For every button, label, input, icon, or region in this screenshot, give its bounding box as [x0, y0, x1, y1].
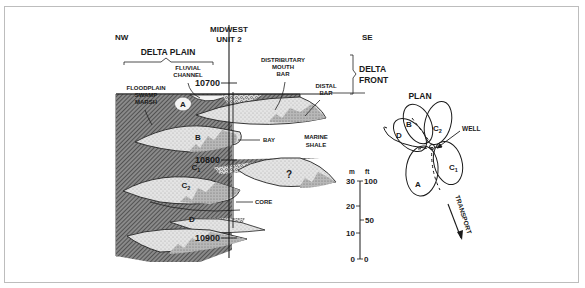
distributary-label: DISTRIBUTARY — [261, 57, 305, 63]
delta-diagram: NW SE MIDWEST UNIT 2 DELTA PLAIN DELTA F… — [0, 0, 585, 288]
scale-ft-100: 100 — [364, 177, 378, 186]
distributary-label: MOUTH — [272, 64, 294, 70]
plan-lobe-a — [404, 145, 440, 198]
delta-front-label: FRONT — [359, 75, 389, 85]
scale-unit-ft: ft — [365, 168, 370, 175]
delta-plain-label: DELTA PLAIN — [141, 47, 196, 57]
depth-10900: 10900 — [195, 233, 220, 243]
plan-lobe-c2 — [420, 98, 457, 147]
plan-view: PLAN D B C2 C1 A WELL TRANSPORT — [384, 91, 481, 240]
plan-well-label: WELL — [462, 125, 480, 132]
direction-nw: NW — [115, 33, 129, 42]
direction-se: SE — [362, 33, 373, 42]
unit-a: A — [180, 100, 186, 109]
plan-title: PLAN — [408, 91, 431, 101]
marine-shale-label: MARINE — [304, 134, 328, 140]
plan-label-b: B — [406, 120, 412, 129]
scale-ft-0: 0 — [364, 255, 369, 264]
distributary-label: BAR — [277, 71, 291, 77]
unit-d: D — [189, 215, 195, 224]
plan-label-c2: C2 — [433, 124, 442, 134]
floodplain-label: MARSH — [135, 99, 157, 105]
cross-section: NW SE MIDWEST UNIT 2 DELTA PLAIN DELTA F… — [115, 25, 389, 262]
delta-front-bracket — [350, 55, 356, 94]
core-label: CORE — [255, 199, 272, 205]
scale-m-30: 30 — [346, 177, 355, 186]
scale-m-20: 20 — [346, 202, 355, 211]
depth-10800: 10800 — [195, 155, 220, 165]
marine-shale-label: SHALE — [306, 142, 326, 148]
well-name: MIDWEST — [210, 25, 248, 34]
scale-m-10: 10 — [346, 229, 355, 238]
scale-ft-50: 50 — [365, 216, 374, 225]
scale-bar: m ft 30 20 10 0 100 50 0 — [346, 168, 378, 264]
delta-plain-bracket — [124, 58, 213, 65]
floodplain-label: FLOODPLAIN — [127, 85, 166, 91]
plan-label-d: D — [396, 131, 402, 140]
unit-unknown: ? — [286, 169, 292, 180]
plan-label-a: A — [415, 180, 421, 189]
plan-label-c1: C1 — [449, 163, 458, 173]
depth-10700: 10700 — [195, 78, 220, 88]
delta-front-label: DELTA — [359, 64, 386, 74]
scale-m-0: 0 — [351, 255, 356, 264]
bay-label: BAY — [263, 137, 275, 143]
fluvial-channel-label: FLUVIAL — [175, 65, 201, 71]
distal-bar-label: DISTAL — [315, 83, 337, 89]
scale-unit-m: m — [349, 168, 355, 175]
distal-bar-label: BAR — [320, 90, 334, 96]
floodplain-label: SWAMP — [135, 92, 158, 98]
unit-b: B — [195, 133, 201, 142]
well-name: UNIT 2 — [216, 35, 242, 44]
